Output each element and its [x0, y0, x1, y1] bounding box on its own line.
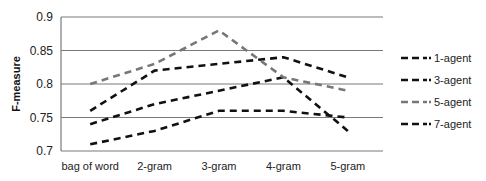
gridlines [61, 17, 383, 151]
legend-label: 5-agent [434, 96, 471, 108]
series-line-5-agent [90, 30, 348, 90]
legend-item-5-agent: 5-agent [401, 96, 471, 108]
y-tick-label: 0.7 [36, 144, 53, 158]
x-category-label: 2-gram [137, 160, 172, 172]
legend-item-1-agent: 1-agent [401, 52, 471, 64]
line-chart: F-measure 0.70.750.80.850.9 bag of word2… [0, 0, 486, 181]
y-tick-label: 0.75 [30, 111, 54, 125]
y-axis-label: F-measure [10, 56, 22, 112]
y-tick-label: 0.85 [30, 44, 54, 58]
legend-label: 3-agent [434, 74, 471, 86]
y-axis-ticks: 0.70.750.80.850.9 [30, 10, 54, 158]
y-tick-label: 0.8 [36, 77, 53, 91]
y-tick-label: 0.9 [36, 10, 53, 24]
legend-item-7-agent: 7-agent [401, 118, 471, 130]
series-line-3-agent [90, 77, 348, 131]
x-category-label: 4-gram [266, 160, 301, 172]
x-category-label: 3-gram [202, 160, 237, 172]
x-axis-categories: bag of word2-gram3-gram4-gram5-gram [61, 160, 365, 172]
series-lines [90, 30, 348, 144]
x-category-label: 5-gram [330, 160, 365, 172]
legend-item-3-agent: 3-agent [401, 74, 471, 86]
legend: 1-agent3-agent5-agent7-agent [401, 52, 471, 130]
x-category-label: bag of word [61, 160, 118, 172]
legend-label: 7-agent [434, 118, 471, 130]
legend-label: 1-agent [434, 52, 471, 64]
series-line-7-agent [90, 111, 348, 145]
